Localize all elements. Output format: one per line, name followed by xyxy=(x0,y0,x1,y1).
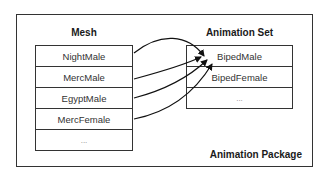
animation-set-item-bipedmale: BipedMale xyxy=(187,46,292,67)
animation-set-title: Animation Set xyxy=(186,27,293,38)
animation-set-item-bipedfemale: BipedFemale xyxy=(187,67,292,88)
mesh-item-nightmale: NightMale xyxy=(36,46,132,67)
mesh-item-more: ... xyxy=(36,130,132,151)
mesh-item-mercmale: MercMale xyxy=(36,67,132,88)
mesh-table: NightMale MercMale EgyptMale MercFemale … xyxy=(35,45,133,151)
animation-set-table: BipedMale BipedFemale ... xyxy=(186,45,293,109)
mesh-title: Mesh xyxy=(35,27,133,38)
mesh-item-mercfemale: MercFemale xyxy=(36,109,132,130)
animation-set-item-more: ... xyxy=(187,88,292,109)
mesh-item-egyptmale: EgyptMale xyxy=(36,88,132,109)
animation-package-label: Animation Package xyxy=(210,149,302,160)
